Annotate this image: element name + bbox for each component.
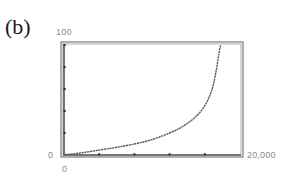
x-tick-mark — [204, 153, 206, 155]
y-tick-mark — [64, 66, 66, 68]
x-tick-mark — [169, 153, 171, 155]
data-curve — [65, 45, 221, 155]
x-tick-mark — [98, 153, 100, 155]
y-tick-mark — [64, 88, 66, 90]
y-tick-mark — [64, 44, 66, 46]
plot-frame-inner — [63, 44, 241, 155]
y-tick-mark — [64, 110, 66, 112]
chart-plot — [0, 0, 298, 186]
y-tick-mark — [64, 132, 66, 134]
x-tick-mark — [133, 153, 135, 155]
